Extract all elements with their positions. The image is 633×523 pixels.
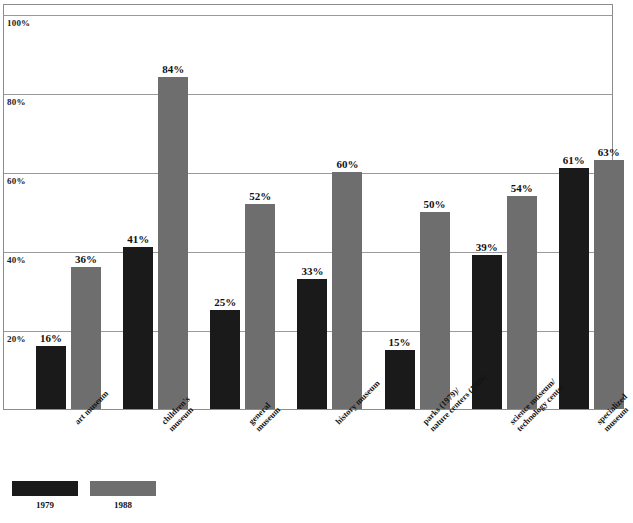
legend-item-1979: 1979: [12, 481, 78, 510]
bar-value-label-1988-0: 36%: [65, 254, 107, 265]
bar-value-label-1979-5: 39%: [466, 242, 508, 253]
bar-value-label-1988-2: 52%: [239, 191, 281, 202]
bars-layer: 16%36%41%84%25%52%33%60%15%50%39%54%61%6…: [3, 4, 613, 410]
bar-1988-2: [245, 204, 275, 409]
legend-swatch-1988: [90, 481, 156, 496]
bar-1979-2: [210, 310, 240, 409]
bar-1988-4: [420, 212, 450, 410]
legend-item-1988: 1988: [90, 481, 156, 510]
category-axis-labels: art museumchildren'smuseumgeneralmuseumh…: [3, 412, 613, 482]
legend-label-1979: 1979: [12, 501, 78, 510]
bar-value-label-1979-1: 41%: [117, 234, 159, 245]
bar-1979-1: [123, 247, 153, 409]
bar-value-label-1988-3: 60%: [326, 159, 368, 170]
bar-1988-0: [71, 267, 101, 409]
bar-1979-3: [297, 279, 327, 409]
bar-1988-1: [158, 77, 188, 409]
legend-label-1988: 1988: [90, 501, 156, 510]
bar-1988-5: [507, 196, 537, 409]
bar-1988-6: [594, 160, 624, 409]
bar-1979-0: [36, 346, 66, 409]
bar-value-label-1988-1: 84%: [152, 64, 194, 75]
bar-value-label-1979-3: 33%: [291, 266, 333, 277]
bar-value-label-1979-2: 25%: [204, 297, 246, 308]
bar-value-label-1988-5: 54%: [501, 183, 543, 194]
bar-1988-3: [332, 172, 362, 409]
bar-1979-6: [559, 168, 589, 409]
legend-swatch-1979: [12, 481, 78, 496]
bar-value-label-1979-0: 16%: [30, 333, 72, 344]
bar-1979-4: [385, 350, 415, 409]
bar-value-label-1979-4: 15%: [379, 337, 421, 348]
bar-value-label-1988-6: 63%: [588, 147, 630, 158]
chart-legend: 19791988: [12, 481, 212, 521]
bar-value-label-1988-4: 50%: [414, 199, 456, 210]
